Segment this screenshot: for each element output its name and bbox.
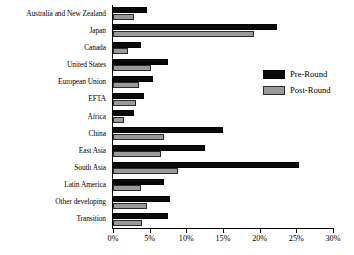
x-axis-tick (296, 229, 297, 233)
category-label: Canada (0, 44, 106, 52)
x-axis-tick (186, 229, 187, 233)
x-axis-tick-label: 0% (108, 234, 119, 243)
x-axis-tick (223, 229, 224, 233)
bar-post-round (113, 134, 164, 140)
category-label: Australia and New Zealand (0, 10, 106, 18)
legend-swatch-pre-icon (263, 70, 285, 79)
legend-item[interactable]: Pre-Round (263, 68, 351, 82)
bar-pre-round (113, 145, 205, 151)
x-axis-tick (150, 229, 151, 233)
x-axis-tick-label: 20% (252, 234, 267, 243)
x-axis-tick-label: 10% (179, 234, 194, 243)
category-label: EFTA (0, 95, 106, 103)
x-axis-tick-label: 5% (144, 234, 155, 243)
y-axis-line (112, 5, 113, 229)
category-label: South Asia (0, 164, 106, 172)
x-axis-tick-label: 30% (325, 234, 340, 243)
bar-post-round (113, 168, 178, 174)
bar-pre-round (113, 24, 277, 30)
plot-area (113, 5, 333, 228)
bar-post-round (113, 203, 147, 209)
category-label: Latin America (0, 181, 106, 189)
bar-post-round (113, 185, 141, 191)
bar-post-round (113, 14, 134, 20)
x-axis-tick (113, 229, 114, 233)
bar-post-round (113, 220, 142, 226)
category-label: China (0, 130, 106, 138)
bar-chart: Australia and New ZealandJapanCanadaUnit… (0, 0, 354, 255)
category-label: Japan (0, 27, 106, 35)
category-axis-labels: Australia and New ZealandJapanCanadaUnit… (0, 5, 110, 228)
bar-pre-round (113, 179, 164, 185)
bar-pre-round (113, 42, 141, 48)
bar-pre-round (113, 110, 134, 116)
bar-post-round (113, 31, 254, 37)
category-label: European Union (0, 78, 106, 86)
category-label: East Asia (0, 147, 106, 155)
bar-pre-round (113, 7, 147, 13)
bar-post-round (113, 82, 139, 88)
x-axis-tick (260, 229, 261, 233)
legend-item[interactable]: Post-Round (263, 84, 351, 98)
legend-label: Post-Round (290, 84, 331, 96)
x-axis-tick-label: 15% (215, 234, 230, 243)
chart-legend: Pre-RoundPost-Round (263, 68, 351, 100)
category-label: Other developing (0, 198, 106, 206)
x-axis-tick-label: 25% (289, 234, 304, 243)
legend-label: Pre-Round (290, 68, 327, 80)
bar-pre-round (113, 162, 299, 168)
bar-pre-round (113, 196, 170, 202)
bar-post-round (113, 65, 151, 71)
category-label: Africa (0, 113, 106, 121)
bar-post-round (113, 48, 128, 54)
x-axis-tick (333, 229, 334, 233)
bar-pre-round (113, 93, 144, 99)
bar-pre-round (113, 76, 153, 82)
bar-pre-round (113, 127, 223, 133)
bar-pre-round (113, 59, 168, 65)
legend-swatch-post-icon (263, 86, 285, 95)
bar-post-round (113, 100, 136, 106)
category-label: Transition (0, 215, 106, 223)
bar-post-round (113, 117, 124, 123)
category-label: United States (0, 61, 106, 69)
bar-post-round (113, 151, 161, 157)
bar-pre-round (113, 213, 168, 219)
